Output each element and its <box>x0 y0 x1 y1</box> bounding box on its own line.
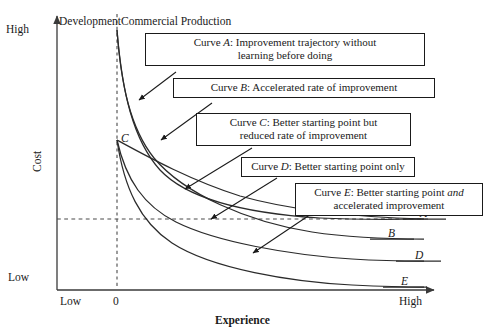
learning-curve-figure: High Low Cost Low 0 High Experience Deve… <box>0 0 493 333</box>
y-axis-low-label: Low <box>8 272 29 284</box>
callout-d-line1: Curve D: Better starting point only <box>251 160 405 172</box>
callout-curve-c: Curve C: Better starting point but reduc… <box>196 113 411 146</box>
curve-endpoint-label-e: E <box>401 276 408 288</box>
callout-b-line1: Curve B: Accelerated rate of improvement <box>211 81 398 93</box>
callout-c-line1: Curve C: Better starting point but <box>230 116 378 128</box>
curve-endpoint-label-b: B <box>388 228 395 240</box>
x-axis-low-label: Low <box>60 296 81 308</box>
callout-curve-e: Curve E: Better starting point and accel… <box>295 183 483 216</box>
curve-endpoint-label-d: D <box>415 250 423 262</box>
x-axis-zero-label: 0 <box>113 296 119 308</box>
phase-label-development: Development <box>59 16 121 28</box>
callout-e-line2: accelerated improvement <box>334 199 445 211</box>
callout-a-line1: Curve A: Improvement trajectory without <box>194 36 377 48</box>
y-axis-high-label: High <box>6 24 29 36</box>
callout-curve-d: Curve D: Better starting point only <box>241 157 415 177</box>
curve-c-start-marker: C <box>121 133 129 145</box>
x-axis-high-label: High <box>399 296 422 308</box>
callout-curve-b: Curve B: Accelerated rate of improvement <box>173 78 435 98</box>
callout-c-line2: reduced rate of improvement <box>240 129 367 141</box>
callout-a-line2: learning before doing <box>238 49 333 61</box>
y-axis-title: Cost <box>31 151 43 172</box>
callout-e-line1: Curve E: Better starting point and <box>314 186 463 198</box>
x-axis-title: Experience <box>215 315 270 327</box>
callout-curve-a: Curve A: Improvement trajectory without … <box>145 33 425 66</box>
arrow-to-curve-a <box>139 72 176 100</box>
phase-label-commercial-production: Commercial Production <box>121 16 231 28</box>
